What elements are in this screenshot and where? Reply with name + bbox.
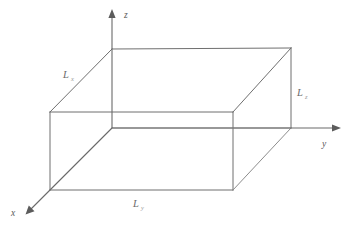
ly-subscript: y [140, 204, 144, 211]
dimension-label-lx: L x [62, 69, 74, 82]
dimension-label-ly: L y [132, 198, 144, 211]
lx-base: L [62, 69, 69, 80]
ly-base: L [132, 198, 139, 209]
z-axis-arrow-icon [108, 9, 115, 18]
box-edges [50, 48, 291, 190]
z-axis-label: z [123, 10, 128, 20]
x-axis-label: x [10, 208, 16, 218]
y-axis-label: y [321, 139, 327, 149]
lx-subscript: x [70, 75, 74, 82]
y-axis-arrow-icon [332, 124, 341, 131]
dimension-label-lz: L z [296, 87, 308, 100]
edge-bottom-right-diagonal [233, 128, 291, 190]
axis-labels: z y x [10, 10, 327, 218]
edge-top-right [233, 48, 291, 112]
lz-subscript: z [304, 93, 308, 100]
box-diagram-svg: z y x L x L z L y [0, 0, 343, 225]
lz-base: L [296, 87, 303, 98]
edge-top-left [50, 49, 112, 112]
edge-top-back [112, 48, 291, 49]
x-axis-line [31, 128, 112, 209]
figure-canvas: z y x L x L z L y [0, 0, 343, 225]
